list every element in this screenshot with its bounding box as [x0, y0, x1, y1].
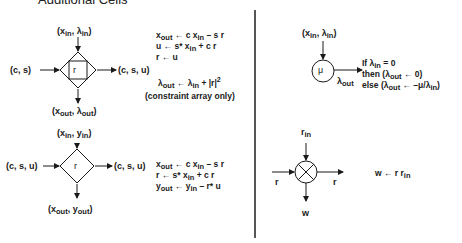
- boundary-input-top-label: (xin, λin): [57, 26, 91, 36]
- boundary-output-right-label: (c, s, u): [118, 65, 150, 75]
- multiplier-input-left-label: r: [275, 177, 279, 187]
- internal-input-top-label: (xin, yin): [57, 128, 91, 138]
- boundary-lambda-update: λout ← λin + |r|2: [158, 78, 221, 88]
- mu-output-label: λout: [337, 76, 354, 86]
- multiplier-output-right-label: r: [333, 177, 337, 187]
- boundary-equation-2: u ← s* xin + c r: [156, 41, 216, 51]
- internal-output-bottom-label: (xout, yout): [48, 204, 92, 214]
- boundary-equation-1: xout ← c xin – s r: [156, 30, 224, 40]
- section-divider: [254, 10, 256, 238]
- boundary-rotation-shape: [40, 37, 116, 103]
- boundary-output-bottom-label: (xout, λout): [52, 106, 96, 116]
- multiplier-shape: [272, 143, 343, 201]
- multiplier-input-top-label: rin: [301, 127, 311, 137]
- internal-equation-3: yout ← yin – r* u: [156, 181, 221, 191]
- internal-rotation-shape: [43, 143, 112, 198]
- multiplier-equation: w ← r rin: [375, 168, 411, 178]
- boundary-equation-3: r ← u: [156, 52, 178, 62]
- internal-equation-1: xout ← c xin – s r: [156, 159, 224, 169]
- mu-rule-if: If λin = 0: [362, 58, 395, 68]
- boundary-note: (constraint array only): [145, 91, 235, 101]
- multiplier-output-bottom-label: w: [302, 208, 309, 218]
- mu-cell-symbol: μ: [318, 65, 323, 75]
- mu-rule-else: else (λout ← –μ/λin): [362, 80, 440, 90]
- mu-input-label: (xin, λin): [302, 28, 336, 38]
- boundary-input-left-label: (c, s): [10, 65, 31, 75]
- internal-cell-symbol: r: [74, 161, 77, 171]
- internal-input-left-label: (c, s, u): [6, 161, 38, 171]
- boundary-cell-symbol: r: [73, 65, 76, 75]
- internal-equation-2: r ← s* xin + c r: [156, 170, 214, 180]
- internal-output-right-label: (c, s, u): [114, 161, 146, 171]
- mu-rule-then: then (λout ← 0): [362, 69, 422, 79]
